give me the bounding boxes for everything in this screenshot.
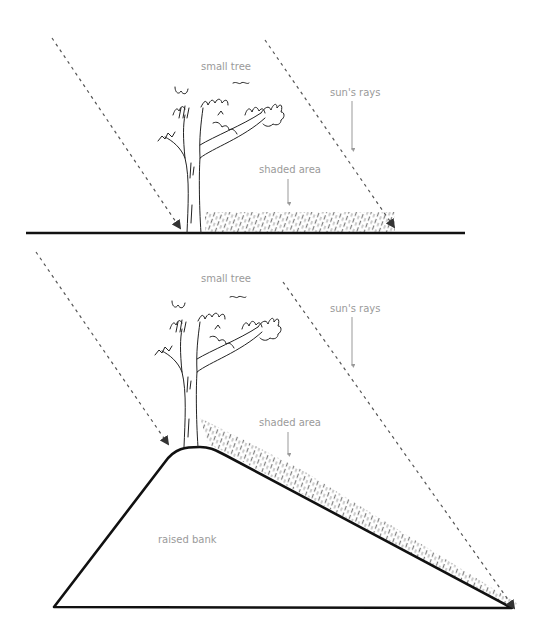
small-tree-label: small tree (201, 61, 251, 72)
shaded-area-label: shaded area (259, 417, 321, 428)
shaded-area-label: shaded area (259, 164, 321, 175)
small-tree-label: small tree (201, 273, 251, 284)
sun-ray-right (265, 40, 394, 227)
sun-ray-left (36, 252, 168, 444)
raised-bank-diagram: small tree sun's rays shaded area raised… (36, 252, 518, 608)
raised-bank-label: raised bank (158, 534, 217, 545)
sun-ray-left (52, 38, 180, 228)
shaded-area-flat (205, 212, 395, 232)
tree-icon (158, 82, 284, 233)
suns-rays-label: sun's rays (330, 303, 380, 314)
sun-shade-diagram: small tree sun's rays shaded area small … (0, 0, 538, 625)
suns-rays-label: sun's rays (330, 87, 380, 98)
flat-ground-diagram: small tree sun's rays shaded area (26, 38, 465, 233)
